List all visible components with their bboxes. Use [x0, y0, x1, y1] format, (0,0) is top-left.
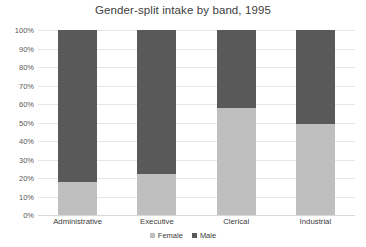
chart-legend: FemaleMale [0, 231, 366, 240]
y-axis: 0%10%20%30%40%50%60%70%80%90%100% [0, 30, 34, 215]
gridline [38, 215, 355, 216]
bar-group[interactable] [137, 30, 176, 215]
legend-item-female[interactable]: Female [150, 231, 183, 240]
x-axis: AdministrativeExecutiveClericalIndustria… [38, 217, 355, 231]
y-axis-tick-label: 50% [0, 118, 34, 127]
bar-group[interactable] [217, 30, 256, 215]
bar-segment-male[interactable] [296, 30, 335, 124]
y-axis-tick-label: 60% [0, 100, 34, 109]
x-axis-tick-label: Executive [140, 217, 174, 226]
bar-segment-female[interactable] [58, 182, 97, 215]
bars-layer [38, 30, 355, 215]
chart-container: Gender-split intake by band, 1995 0%10%2… [0, 0, 366, 247]
y-axis-tick-label: 10% [0, 192, 34, 201]
y-axis-tick-label: 70% [0, 81, 34, 90]
bar-segment-female[interactable] [217, 108, 256, 215]
bar-segment-female[interactable] [296, 124, 335, 215]
y-axis-tick-label: 30% [0, 155, 34, 164]
x-axis-tick-label: Industrial [300, 217, 332, 226]
bar-segment-male[interactable] [217, 30, 256, 108]
y-axis-tick-label: 100% [0, 26, 34, 35]
legend-label: Female [158, 231, 183, 240]
legend-label: Male [200, 231, 216, 240]
bar-segment-male[interactable] [58, 30, 97, 182]
bar-segment-female[interactable] [137, 174, 176, 215]
plot-area [38, 30, 355, 215]
y-axis-tick-label: 20% [0, 174, 34, 183]
legend-swatch-icon [150, 233, 155, 238]
chart-title: Gender-split intake by band, 1995 [0, 4, 366, 16]
y-axis-tick-label: 80% [0, 63, 34, 72]
y-axis-tick-label: 90% [0, 44, 34, 53]
bar-segment-male[interactable] [137, 30, 176, 174]
bar-group[interactable] [58, 30, 97, 215]
legend-item-male[interactable]: Male [192, 231, 216, 240]
y-axis-tick-label: 0% [0, 211, 34, 220]
x-axis-tick-label: Clerical [223, 217, 249, 226]
bar-group[interactable] [296, 30, 335, 215]
y-axis-tick-label: 40% [0, 137, 34, 146]
x-axis-tick-label: Administrative [53, 217, 102, 226]
legend-swatch-icon [192, 233, 197, 238]
